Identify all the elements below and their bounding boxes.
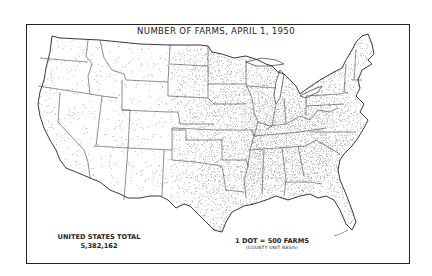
map-title: NUMBER OF FARMS, APRIL 1, 1950 bbox=[0, 26, 432, 36]
lake-superior bbox=[246, 58, 284, 66]
legend-dot-value: 1 DOT = 500 FARMS bbox=[232, 237, 312, 245]
legend-basis: (COUNTY UNIT BASIS) bbox=[232, 245, 312, 251]
us-outline bbox=[38, 34, 374, 232]
us-total-value: 5,382,162 bbox=[44, 242, 154, 251]
farm-dots-layer bbox=[36, 34, 377, 238]
florida-keys bbox=[334, 230, 348, 236]
us-total-block: UNITED STATES TOTAL 5,382,162 bbox=[44, 233, 154, 251]
us-total-label: UNITED STATES TOTAL bbox=[44, 233, 154, 242]
map-legend: 1 DOT = 500 FARMS (COUNTY UNIT BASIS) bbox=[232, 237, 312, 251]
lake-michigan bbox=[274, 70, 284, 104]
great-lakes bbox=[246, 58, 322, 104]
